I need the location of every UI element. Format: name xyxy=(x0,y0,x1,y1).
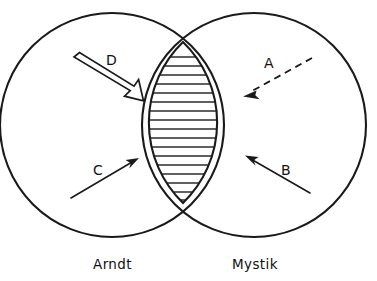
annotation-label-a: A xyxy=(264,56,274,70)
intersection-lens xyxy=(130,42,236,203)
set-label-arndt: Arndt xyxy=(93,258,132,272)
venn-diagram-figure: D A C B Arndt Mystik xyxy=(0,0,377,281)
venn-diagram-canvas xyxy=(0,0,377,281)
annotation-label-b: B xyxy=(281,163,291,177)
annotation-arrow-a xyxy=(243,58,312,99)
annotation-arrow-c xyxy=(71,158,139,198)
annotation-label-d: D xyxy=(106,53,117,67)
annotation-arrow-b xyxy=(245,156,310,194)
set-label-mystik: Mystik xyxy=(232,258,278,272)
annotation-label-c: C xyxy=(93,163,103,177)
